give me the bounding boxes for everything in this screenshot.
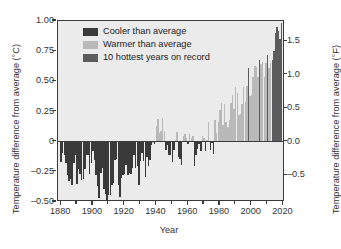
bar — [205, 142, 206, 152]
legend-item-hottest: 10 hottest years on record — [83, 52, 210, 64]
y-tick-label-celsius: –0.50 — [31, 196, 54, 206]
x-tick-label: 1900 — [82, 206, 102, 216]
x-tick-label: 1960 — [177, 206, 197, 216]
y-tick-label-fahrenheit: 0.0 — [287, 136, 300, 146]
x-tick — [218, 201, 219, 205]
x-tick-minor — [234, 201, 235, 204]
y-tick-celsius — [52, 170, 56, 171]
y-tick-fahrenheit — [283, 174, 287, 175]
y-tick-celsius — [52, 200, 56, 201]
y-tick-fahrenheit — [283, 107, 287, 108]
x-tick-label: 1980 — [209, 206, 229, 216]
x-tick-minor — [107, 201, 108, 204]
bar — [164, 131, 165, 142]
y-tick-label-fahrenheit: 1.0 — [287, 69, 300, 79]
y-tick-fahrenheit — [283, 140, 287, 141]
bar — [210, 142, 211, 150]
x-tick-label: 2000 — [240, 206, 260, 216]
y-tick-celsius — [52, 19, 56, 20]
x-tick-minor — [75, 201, 76, 204]
x-tick — [282, 201, 283, 205]
bar — [281, 23, 282, 141]
legend-item-warmer: Warmer than average — [83, 39, 210, 51]
y-axis-title-celsius: Temperature difference from average (°C) — [11, 44, 21, 214]
y-tick-fahrenheit — [283, 40, 287, 41]
x-tick-label: 2020 — [272, 206, 292, 216]
x-tick-minor — [171, 201, 172, 204]
x-tick — [155, 201, 156, 205]
x-tick-label: 1920 — [113, 206, 133, 216]
x-tick — [91, 201, 92, 205]
x-tick — [123, 201, 124, 205]
y-tick-celsius — [52, 50, 56, 51]
x-tick-minor — [266, 201, 267, 204]
chart-legend: Cooler than averageWarmer than average10… — [83, 26, 210, 66]
x-tick-label: 1880 — [50, 206, 70, 216]
legend-label-warmer: Warmer than average — [103, 39, 192, 51]
x-axis-title: Year — [0, 225, 338, 235]
x-axis-labels: 18801900192019401960198020002020 — [0, 206, 338, 220]
bar — [173, 142, 174, 150]
y-tick-celsius — [52, 80, 56, 81]
legend-swatch-hottest — [83, 54, 98, 62]
x-tick-minor — [202, 201, 203, 204]
y-axis-title-fahrenheit: Temperature difference from average (°F) — [331, 45, 341, 214]
y-tick-label-fahrenheit: –0.5 — [287, 169, 305, 179]
legend-swatch-warmer — [83, 41, 98, 49]
y-tick-celsius — [52, 110, 56, 111]
bar — [181, 142, 182, 165]
x-tick — [187, 201, 188, 205]
legend-item-cooler: Cooler than average — [83, 26, 210, 38]
legend-label-cooler: Cooler than average — [103, 26, 186, 38]
y-tick-label-fahrenheit: 0.5 — [287, 102, 300, 112]
x-tick-label: 1940 — [145, 206, 165, 216]
bar — [208, 122, 209, 141]
x-tick-minor — [139, 201, 140, 204]
zero-reference-line — [58, 141, 283, 142]
legend-label-hottest: 10 hottest years on record — [103, 52, 210, 64]
bar — [200, 142, 201, 152]
y-tick-fahrenheit — [283, 73, 287, 74]
y-tick-celsius — [52, 140, 56, 141]
x-tick — [250, 201, 251, 205]
y-tick-label-fahrenheit: 1.5 — [287, 35, 300, 45]
y-tick-label-celsius: –0.25 — [31, 166, 54, 176]
x-tick — [60, 201, 61, 205]
legend-swatch-cooler — [83, 28, 98, 36]
bar — [213, 142, 214, 154]
